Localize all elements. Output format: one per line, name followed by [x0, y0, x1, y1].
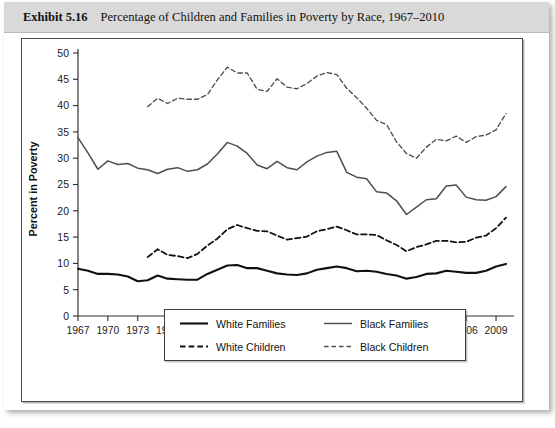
legend-item-black-children[interactable]: Black Children: [315, 341, 459, 353]
exhibit-header: Exhibit 5.16 Percentage of Children and …: [4, 2, 549, 33]
svg-text:1970: 1970: [96, 325, 119, 336]
legend-label-white-families: White Families: [216, 318, 285, 330]
svg-text:20: 20: [57, 205, 69, 217]
y-axis-title: Percent in Poverty: [27, 142, 39, 237]
svg-text:0: 0: [63, 310, 69, 322]
legend-item-black-families[interactable]: Black Families: [315, 318, 459, 330]
exhibit-number: Exhibit 5.16: [23, 10, 88, 25]
legend-swatch-solid-black: [179, 319, 209, 328]
legend-label-black-children: Black Children: [360, 341, 428, 353]
svg-text:50: 50: [57, 47, 69, 59]
svg-text:2009: 2009: [485, 325, 508, 336]
svg-text:1973: 1973: [126, 325, 149, 336]
exhibit-figure: Exhibit 5.16 Percentage of Children and …: [4, 2, 549, 410]
svg-text:10: 10: [57, 257, 69, 269]
chart-axes: 0510152025303540455019671970197319761979…: [57, 47, 514, 336]
svg-text:5: 5: [63, 284, 69, 296]
svg-text:1967: 1967: [67, 325, 90, 336]
svg-text:25: 25: [57, 178, 69, 190]
svg-text:35: 35: [57, 126, 69, 138]
legend-item-white-children[interactable]: White Children: [171, 341, 315, 353]
chart-series: [78, 67, 506, 281]
legend-swatch-solid-gray: [323, 319, 353, 328]
series-black-families: [78, 138, 506, 215]
series-white-children: [148, 218, 506, 259]
legend-swatch-dashed-black: [179, 342, 209, 351]
legend-item-white-families[interactable]: White Families: [171, 318, 315, 330]
svg-text:45: 45: [57, 73, 69, 85]
svg-text:40: 40: [57, 99, 69, 111]
series-white-families: [78, 264, 506, 281]
legend-label-white-children: White Children: [216, 341, 285, 353]
series-black-children: [148, 67, 506, 158]
svg-text:30: 30: [57, 152, 69, 164]
chart-legend: White Families Black Families White Chil…: [164, 309, 466, 361]
legend-swatch-dashed-gray: [323, 342, 353, 351]
svg-text:15: 15: [57, 231, 69, 243]
legend-label-black-families: Black Families: [360, 318, 428, 330]
exhibit-title: Percentage of Children and Families in P…: [101, 10, 445, 25]
